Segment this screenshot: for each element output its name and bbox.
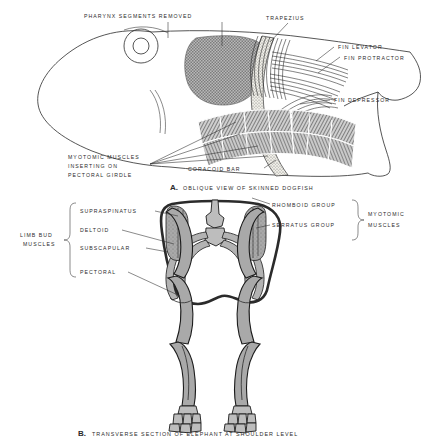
panel-b-elephant-section: LIMB BUD MUSCLES SUPRASPINATUS DELTOID S… [20, 198, 405, 438]
label-pharynx-removed: PHARYNX SEGMENTS REMOVED [84, 13, 192, 19]
limb-bud-label-line2: MUSCLES [23, 241, 55, 247]
label-myotomic-inserting-line1: MYOTOMIC MUSCLES [68, 154, 140, 160]
myotomic-label-line1: MYOTOMIC [368, 211, 405, 217]
label-fin-depressor: FIN DEPRESSOR [334, 97, 390, 103]
label-deltoid: DELTOID [80, 227, 109, 233]
anatomy-figure: PHARYNX SEGMENTS REMOVED TRAPEZIUS FIN L… [0, 0, 431, 442]
dogfish-body-outline [38, 31, 170, 167]
dogfish-eye-outer [124, 29, 158, 63]
dogfish-tail-outline [368, 52, 421, 176]
label-rhomboid-group: RHOMBOID GROUP [272, 202, 336, 208]
coracoid-bar-band [251, 36, 288, 176]
panel-b-caption-letter: B. [78, 429, 86, 438]
vertebra [206, 200, 224, 228]
myotomic-bracket [352, 200, 364, 240]
label-fin-protractor: FIN PROTRACTOR [344, 55, 405, 61]
fin-levator-fibers [272, 52, 348, 86]
panel-a-caption-letter: A. [170, 183, 178, 192]
left-manus-bones [169, 406, 201, 433]
label-pectoral: PECTORAL [80, 269, 116, 275]
panel-a-caption-text: OBLIQUE VIEW OF SKINNED DOGFISH [183, 185, 314, 191]
panel-a-dogfish: PHARYNX SEGMENTS REMOVED TRAPEZIUS FIN L… [38, 13, 421, 192]
limb-bud-label-line1: LIMB BUD [20, 232, 53, 238]
figure-canvas: PHARYNX SEGMENTS REMOVED TRAPEZIUS FIN L… [0, 0, 431, 442]
myotomic-label-line2: MUSCLES [368, 222, 400, 228]
label-myotomic-inserting-line2: INSERTING ON [68, 163, 118, 169]
label-trapezius: TRAPEZIUS [266, 15, 305, 21]
right-manus-bones [224, 406, 256, 433]
label-fin-levator: FIN LEVATOR [338, 44, 383, 50]
label-myotomic-inserting-line3: PECTORAL GIRDLE [68, 172, 132, 178]
right-radius-ulna [235, 342, 261, 406]
panel-b-caption-text: TRANSVERSE SECTION OF ELEPHANT AT SHOULD… [92, 431, 298, 437]
label-serratus-group: SERRATUS GROUP [272, 222, 335, 228]
limb-bud-bracket [64, 203, 76, 277]
dogfish-eye-pupil [133, 38, 149, 54]
left-radius-ulna [170, 342, 196, 406]
label-supraspinatus: SUPRASPINATUS [80, 208, 137, 214]
label-coracoid-bar: CORACOID BAR [188, 166, 241, 172]
label-subscapular: SUBSCAPULAR [80, 245, 130, 251]
